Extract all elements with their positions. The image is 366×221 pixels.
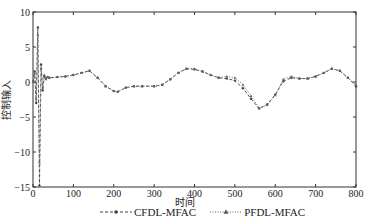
y-tick-label: −15 <box>14 182 30 193</box>
data-point <box>233 76 236 79</box>
data-point <box>290 75 293 78</box>
data-point <box>40 63 42 65</box>
y-tick-label: 5 <box>25 42 30 53</box>
y-tick-label: −10 <box>14 147 30 158</box>
data-point <box>242 83 245 86</box>
dotted-triangle-line-icon <box>210 207 242 217</box>
axis-ticks: 0100200300400500600700800−15−10−50510 <box>14 7 363 200</box>
y-tick-label: 10 <box>20 7 30 18</box>
data-point <box>41 89 43 91</box>
y-axis-label: 控制输入 <box>0 80 12 120</box>
data-point <box>43 74 46 77</box>
data-point <box>41 86 44 89</box>
data-series <box>32 26 358 187</box>
legend-label-cfdl: CFDL-MFAC <box>134 206 196 218</box>
series-line-cfdl-mfac <box>33 27 356 185</box>
data-point <box>36 33 39 36</box>
x-tick-label: 500 <box>227 188 242 199</box>
series-line-pfdl-mfac <box>33 34 356 162</box>
x-tick-label: 200 <box>106 188 121 199</box>
legend: CFDL-MFAC PFDL-MFAC <box>100 205 305 219</box>
data-point <box>282 78 285 81</box>
data-point <box>35 98 38 101</box>
legend-label-pfdl: PFDL-MFAC <box>244 206 305 218</box>
plot-frame <box>33 12 356 187</box>
legend-item-pfdl: PFDL-MFAC <box>210 206 305 218</box>
x-tick-label: 300 <box>147 188 162 199</box>
y-tick-label: −5 <box>19 112 30 123</box>
x-tick-label: 0 <box>31 188 36 199</box>
line-chart: 0100200300400500600700800−15−10−50510 时间… <box>0 0 366 221</box>
data-point <box>250 98 252 100</box>
legend-item-cfdl: CFDL-MFAC <box>100 206 196 218</box>
data-point <box>38 161 41 164</box>
data-point <box>226 77 228 79</box>
dashed-dot-line-icon <box>100 207 132 217</box>
data-point <box>282 80 284 82</box>
x-tick-label: 800 <box>349 188 364 199</box>
data-point <box>234 79 236 81</box>
x-tick-label: 100 <box>66 188 81 199</box>
data-point <box>193 67 196 70</box>
data-point <box>38 184 40 186</box>
data-point <box>33 72 36 75</box>
x-tick-label: 700 <box>308 188 323 199</box>
data-point <box>242 87 244 89</box>
y-tick-label: 0 <box>25 77 30 88</box>
data-point <box>37 26 39 28</box>
data-point <box>250 95 253 98</box>
data-point <box>40 67 43 70</box>
data-point <box>35 102 37 104</box>
x-tick-label: 600 <box>268 188 283 199</box>
